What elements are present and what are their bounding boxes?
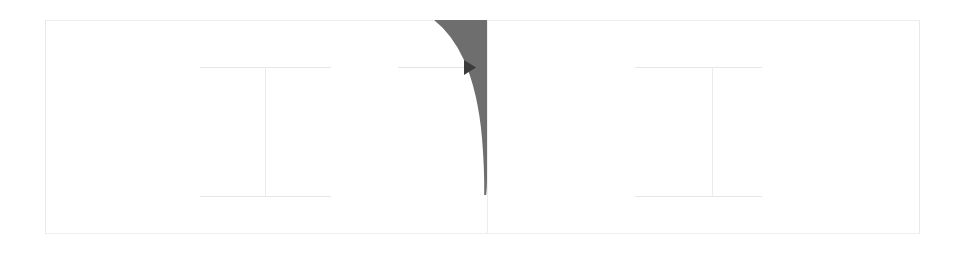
- decay-curve-region: [420, 20, 490, 190]
- decay-curve-fill-path: [434, 20, 487, 195]
- error-bar-left: [200, 67, 331, 197]
- error-bar-stem: [712, 67, 713, 197]
- frame-bottom-edge: [46, 233, 919, 234]
- error-bar-stem: [265, 67, 266, 197]
- figure-canvas: [0, 0, 968, 253]
- error-bar-right: [635, 67, 762, 197]
- error-bar-cap-top: [635, 67, 762, 68]
- error-bar-cap-bottom: [200, 196, 331, 197]
- error-bar-cap-bottom: [635, 196, 762, 197]
